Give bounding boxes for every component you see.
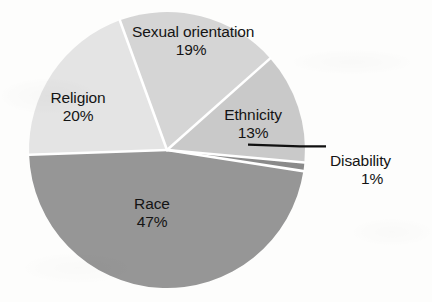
- slice-label-sexual-orientation: Sexual orientation 19%: [132, 23, 250, 59]
- slice-label-religion: Religion 20%: [30, 89, 126, 125]
- slice-label-ethnicity: Ethnicity 13%: [200, 106, 306, 142]
- slice-value-sexual-orientation: 19%: [132, 41, 250, 59]
- slice-label-race-text: Race: [134, 195, 170, 212]
- pie-chart: Sexual orientation 19% Ethnicity 13% Dis…: [0, 0, 432, 302]
- slice-label-race: Race 47%: [106, 195, 198, 231]
- slice-label-sexual-orientation-text: Sexual orientation: [132, 23, 254, 40]
- slice-label-ethnicity-text: Ethnicity: [224, 106, 282, 123]
- slice-value-race: 47%: [106, 213, 198, 231]
- slice-value-religion: 20%: [30, 107, 126, 125]
- slice-label-disability: Disability 1%: [330, 152, 430, 188]
- slice-value-disability: 1%: [330, 170, 414, 188]
- slice-value-ethnicity: 13%: [200, 124, 306, 142]
- slice-label-disability-text: Disability: [330, 152, 391, 169]
- slice-label-religion-text: Religion: [50, 89, 105, 106]
